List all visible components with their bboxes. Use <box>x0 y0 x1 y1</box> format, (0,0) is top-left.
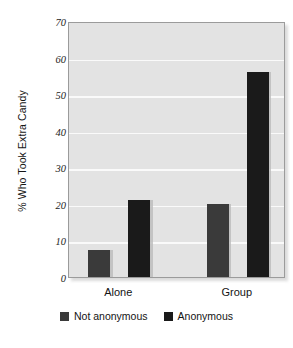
y-axis-tick-label: 50 <box>30 90 66 101</box>
y-axis-tick-label: 60 <box>30 53 66 64</box>
y-axis-tick-label: 0 <box>30 273 66 284</box>
legend-swatch-icon <box>60 312 69 321</box>
y-axis-tick-label: 30 <box>30 163 66 174</box>
bar-alone-anonymous <box>128 200 150 277</box>
y-axis-title: % Who Took Extra Candy <box>16 66 28 236</box>
legend-label: Anonymous <box>178 310 233 322</box>
bar-group-anonymous <box>247 72 269 277</box>
bar-series-container <box>69 23 284 277</box>
y-axis-tick-label: 40 <box>30 126 66 137</box>
y-axis-tick-label: 20 <box>30 199 66 210</box>
legend-item-anonymous: Anonymous <box>164 310 233 322</box>
legend-item-not-anonymous: Not anonymous <box>60 310 148 322</box>
bar-group-not-anonymous <box>207 204 229 277</box>
y-axis-tick-label: 70 <box>30 17 66 28</box>
x-axis-label-group: Group <box>221 286 252 298</box>
legend-label: Not anonymous <box>74 310 148 322</box>
x-axis-labels: AloneGroup <box>68 286 285 302</box>
x-axis-label-alone: Alone <box>104 286 132 298</box>
chart-legend: Not anonymousAnonymous <box>0 310 293 322</box>
y-axis-ticks: 010203040506070 <box>30 0 66 348</box>
legend-swatch-icon <box>164 312 173 321</box>
plot-area <box>68 22 285 278</box>
y-axis-tick-label: 10 <box>30 236 66 247</box>
bar-alone-not-anonymous <box>88 250 110 277</box>
bar-chart-figure: % Who Took Extra Candy 010203040506070 A… <box>0 0 293 348</box>
